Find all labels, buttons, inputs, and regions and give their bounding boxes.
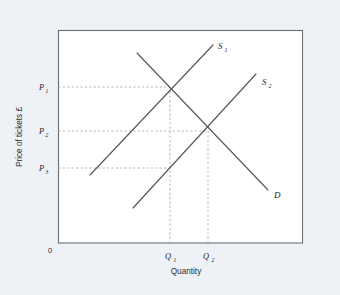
y-axis-title: Price of tickets £: [15, 107, 24, 168]
y-tick-price-1-subscript: 1: [46, 88, 49, 94]
y-axis-title-group: Price of tickets £: [15, 107, 24, 168]
x-tick-quantity-2-text: Q: [203, 252, 209, 261]
curve-label-s1-text: S: [218, 41, 223, 51]
x-axis-title: Quantity: [171, 267, 202, 276]
origin-label: 0: [48, 246, 52, 255]
x-tick-quantity-1-text: Q: [165, 252, 171, 261]
curve-label-s2-text: S: [262, 77, 267, 87]
curve-label-d-text: D: [273, 190, 281, 200]
y-tick-price-2-text: P: [38, 127, 44, 136]
economics-supply-demand-figure: Price of tickets £ P 1 P 2 P 3 0 Q 1 Q 2…: [0, 0, 340, 295]
plot-area-box: [59, 31, 303, 244]
x-tick-quantity-2-subscript: 2: [212, 257, 215, 263]
curve-label-s2-subscript: 2: [269, 83, 272, 89]
curve-label-s1-subscript: 1: [225, 47, 228, 53]
x-tick-quantity-1-subscript: 1: [174, 257, 177, 263]
chart-canvas: Price of tickets £ P 1 P 2 P 3 0 Q 1 Q 2…: [0, 0, 340, 295]
curve-label-d: D: [273, 190, 281, 200]
y-tick-price-3-text: P: [38, 164, 44, 173]
y-tick-price-3-subscript: 3: [45, 169, 49, 175]
y-tick-price-2-subscript: 2: [46, 132, 49, 138]
y-tick-price-1-text: P: [38, 83, 44, 92]
